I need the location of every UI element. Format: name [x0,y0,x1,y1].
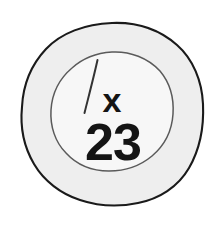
number-mark-label: 23 [85,113,141,171]
annotation-stamp-drawing: x 23 [0,0,221,229]
annotation-stamp-canvas: x 23 [0,0,221,229]
